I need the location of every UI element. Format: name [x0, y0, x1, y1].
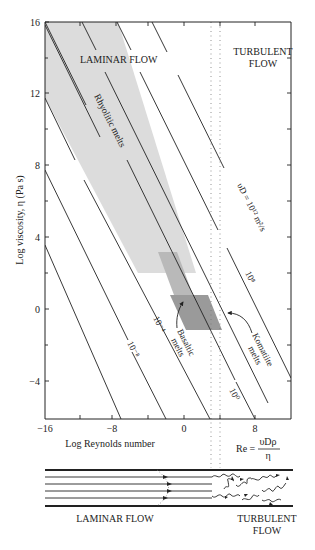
profile-arrow-3	[167, 489, 172, 493]
reynolds-formula-lhs: Re =	[236, 443, 256, 454]
reynolds-formula-denominator: η	[265, 450, 270, 461]
y-axis-label: Log viscosity, η (Pa s)	[14, 175, 26, 264]
x-tick-minus16: −16	[37, 423, 53, 434]
y-tick-4: 4	[35, 232, 40, 243]
profile-arrow-2	[167, 482, 172, 486]
y-tick-minus4: −4	[29, 376, 40, 387]
x-tick-minus8: −8	[107, 423, 118, 434]
y-tick-0: 0	[35, 304, 40, 315]
velocity-profile	[157, 470, 169, 506]
x-tick-8: 8	[253, 423, 258, 434]
y-tick-8: 8	[35, 160, 40, 171]
pipe-turbulent-label-2: FLOW	[253, 525, 282, 536]
line-label-vdm8: 10⁻⁸	[125, 339, 142, 359]
reynolds-viscosity-diagram: 16 12 8 4 0 −4 −16 −8 0 8 Log viscosity,…	[0, 0, 315, 550]
x-axis-label: Log Reynolds number	[65, 438, 155, 449]
line-label-vd12: υD = 10¹² m²/s	[235, 181, 268, 233]
laminar-flow-label: LAMINAR FLOW	[80, 54, 158, 65]
line-vd0-lower	[236, 382, 255, 419]
pipe-laminar-label: LAMINAR FLOW	[76, 513, 154, 524]
line-left-g	[45, 245, 121, 419]
line-top-d	[152, 22, 167, 52]
turbulent-eddies	[212, 474, 286, 502]
pipe-turbulent-label-1: TURBULENT	[237, 513, 296, 524]
turbulent-flow-label-1: TURBULENT	[233, 46, 292, 57]
turbulent-flow-label-2: FLOW	[249, 58, 278, 69]
line-label-vd8: 10⁸	[243, 269, 257, 284]
x-tick-0: 0	[182, 423, 187, 434]
profile-arrow-1	[163, 475, 168, 479]
pipe-flow-diagram	[45, 470, 293, 506]
profile-arrow-4	[163, 496, 168, 500]
y-tick-16: 16	[30, 17, 40, 28]
y-tick-12: 12	[30, 88, 40, 99]
line-d-main	[178, 75, 224, 168]
reynolds-formula-numerator: υDρ	[259, 436, 276, 447]
line-left-f2	[132, 352, 166, 419]
line-label-vdm4: 10⁻⁴	[151, 314, 168, 334]
